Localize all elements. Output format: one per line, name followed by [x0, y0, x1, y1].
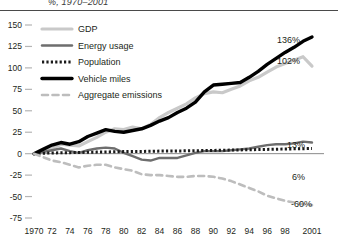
y-tick-label: 25 [13, 127, 23, 137]
end-label-energy-usage: 13% [287, 140, 305, 150]
y-axis-labels: 1501251007550250-25-50-75 [8, 20, 22, 223]
end-label-population: 6% [292, 172, 305, 182]
x-tick-label: 78 [101, 226, 111, 236]
x-tick-label: 90 [209, 226, 219, 236]
legend-label-population: Population [78, 57, 121, 67]
y-axis-ticks [25, 25, 32, 218]
y-tick-label: 100 [8, 63, 22, 73]
x-tick-label: 86 [173, 226, 183, 236]
y-tick-label: 0 [17, 149, 22, 159]
x-tick-label: 98 [280, 226, 290, 236]
y-tick-label: -75 [10, 213, 23, 223]
x-tick-label: 82 [137, 226, 147, 236]
x-tick-label: 92 [227, 226, 237, 236]
x-axis-labels: 197072747678808284868890929496982001 [25, 226, 322, 236]
y-tick-label: 50 [13, 106, 23, 116]
x-tick-label: 94 [244, 226, 254, 236]
end-label-vehicle-miles: 136% [277, 35, 300, 45]
x-tick-label: 76 [83, 226, 93, 236]
line-chart-plot: 1501251007550250-25-50-75 19707274767880… [0, 0, 338, 246]
legend-label-energy-usage: Energy usage [78, 41, 134, 51]
y-tick-label: -50 [10, 192, 23, 202]
y-tick-label: 150 [8, 20, 22, 30]
y-tick-label: 125 [8, 41, 22, 51]
x-tick-label: 74 [65, 226, 75, 236]
legend-label-vehicle-miles: Vehicle miles [78, 74, 131, 84]
series-line-aggregate-emissions [34, 154, 312, 205]
data-series-group [34, 37, 312, 205]
end-label-aggregate-emissions: -60% [291, 199, 312, 209]
chart-figure: %, 1970–2001 1501251007550250-25-50-75 1… [0, 0, 338, 246]
series-line-population [34, 149, 312, 154]
y-tick-label: 75 [13, 84, 23, 94]
legend-label-gdp: GDP [78, 24, 98, 34]
chart-legend: GDPEnergy usagePopulationVehicle milesAg… [42, 24, 163, 100]
series-line-gdp [34, 57, 312, 154]
x-tick-label: 80 [119, 226, 129, 236]
x-tick-label: 84 [155, 226, 165, 236]
x-tick-label: 88 [191, 226, 201, 236]
legend-label-aggregate-emissions: Aggregate emissions [78, 90, 163, 100]
series-line-vehicle-miles [34, 37, 312, 154]
x-tick-label: 2001 [303, 226, 322, 236]
end-label-gdp: 102% [277, 56, 300, 66]
y-tick-label: -25 [10, 170, 23, 180]
x-tick-label: 1970 [25, 226, 44, 236]
x-tick-label: 96 [262, 226, 272, 236]
x-tick-label: 72 [47, 226, 57, 236]
